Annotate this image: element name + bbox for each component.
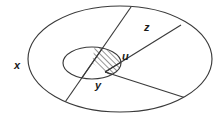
label-sector-region: z — [143, 21, 150, 33]
label-inner-set: y — [94, 79, 102, 91]
set-diagram-canvas: x y u z — [0, 0, 220, 125]
label-outer-set: x — [13, 59, 21, 71]
set-diagram-figure: x y u z — [0, 0, 220, 125]
label-hatched-region: u — [122, 50, 129, 62]
